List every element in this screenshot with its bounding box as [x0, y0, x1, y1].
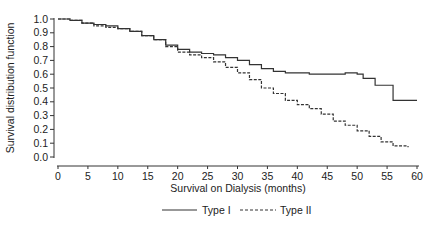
x-tick-label: 40: [291, 170, 303, 182]
y-axis: 0.00.10.20.30.40.50.60.70.80.91.0: [33, 13, 54, 163]
legend: Type I Type II: [162, 204, 312, 216]
y-tick-label: 0.5: [33, 82, 48, 94]
y-tick-label: 0.2: [33, 123, 48, 135]
y-tick-label: 0.7: [33, 54, 48, 66]
y-tick-label: 0.9: [33, 26, 48, 38]
y-tick-label: 0.4: [33, 95, 48, 107]
x-axis: 051015202530354045505560: [55, 166, 423, 182]
y-tick-label: 0.1: [33, 137, 48, 149]
type-i-curve: [58, 19, 417, 100]
y-tick-label: 0.6: [33, 68, 48, 80]
x-axis-label: Survival on Dialysis (months): [170, 182, 305, 194]
y-axis-label: Survival distribution function: [4, 22, 16, 153]
y-tick-label: 0.8: [33, 40, 48, 52]
x-tick-label: 45: [321, 170, 333, 182]
legend-type2-label: Type II: [280, 204, 312, 216]
x-tick-label: 15: [142, 170, 154, 182]
x-tick-label: 10: [112, 170, 124, 182]
survival-chart: 0.00.10.20.30.40.50.60.70.80.91.0 051015…: [0, 0, 439, 227]
legend-type1-label: Type I: [202, 204, 231, 216]
type-ii-curve: [58, 19, 408, 147]
y-tick-label: 0.0: [33, 151, 48, 163]
x-tick-label: 30: [232, 170, 244, 182]
y-tick-label: 0.3: [33, 109, 48, 121]
x-tick-label: 20: [172, 170, 184, 182]
x-tick-label: 0: [55, 170, 61, 182]
y-tick-label: 1.0: [33, 13, 48, 25]
x-tick-label: 60: [411, 170, 423, 182]
x-tick-label: 50: [351, 170, 363, 182]
x-tick-label: 55: [381, 170, 393, 182]
x-tick-label: 35: [262, 170, 274, 182]
x-tick-label: 5: [85, 170, 91, 182]
series-lines: [58, 19, 417, 147]
x-tick-label: 25: [202, 170, 214, 182]
